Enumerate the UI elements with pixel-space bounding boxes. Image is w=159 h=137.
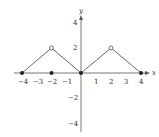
tick-label: 1 — [94, 78, 98, 86]
filled-point — [139, 71, 143, 75]
tick-label: −4 — [68, 120, 79, 128]
y-tick-labels: 4 2 −2 −4 — [68, 19, 79, 128]
tick-label: −3 — [33, 78, 43, 86]
x-axis-arrow-icon — [145, 71, 150, 75]
tick-label: −2 — [68, 94, 78, 102]
filled-point — [20, 71, 24, 75]
tick-label: 2 — [73, 44, 77, 52]
tick-label: −1 — [62, 78, 72, 86]
open-point — [109, 46, 113, 50]
filled-point — [79, 71, 83, 75]
tick-label: 4 — [139, 78, 144, 86]
function-graph: x y −4 −3 −2 −1 1 2 3 4 4 2 −2 −4 — [0, 0, 159, 137]
function-curve — [22, 48, 141, 73]
open-point — [50, 46, 54, 50]
filled-point — [50, 71, 54, 75]
y-axis-label: y — [78, 7, 84, 15]
tick-label: 4 — [73, 19, 78, 27]
y-axis-arrow-icon — [79, 15, 83, 20]
tick-label: −2 — [47, 78, 57, 86]
tick-label: 2 — [109, 78, 113, 86]
tick-label: −4 — [18, 78, 29, 86]
x-axis-label: x — [152, 69, 156, 77]
tick-label: 3 — [124, 78, 128, 86]
